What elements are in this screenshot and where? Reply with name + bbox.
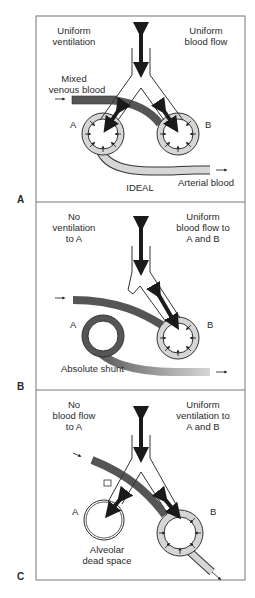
outflow-label: Arterial blood bbox=[178, 177, 234, 188]
top-left-label-line3: to A bbox=[66, 421, 83, 432]
top-right-label-line3: A and B bbox=[186, 233, 219, 244]
top-left-label-line2: blood flow bbox=[53, 410, 96, 421]
top-right-label-line1: Uniform bbox=[189, 25, 222, 36]
inflow-label-line1: Mixed bbox=[61, 73, 86, 84]
shunt-label: Absolute shunt bbox=[61, 363, 124, 374]
dead-space-label-line2: dead space bbox=[82, 555, 131, 566]
panel-label: B bbox=[17, 381, 24, 392]
alveolus-b-label: B bbox=[210, 506, 216, 517]
top-left-label-line1: No bbox=[68, 399, 80, 410]
panel-a: A Uniform ventilation Uniform blood flow… bbox=[17, 25, 234, 205]
alveolus-a-label: A bbox=[72, 506, 79, 517]
top-right-label-line2: blood flow bbox=[185, 36, 228, 47]
alveolus-a-label: A bbox=[70, 319, 77, 330]
panel-label: C bbox=[17, 571, 24, 582]
top-left-label-line1: Uniform bbox=[57, 25, 90, 36]
panel-label: A bbox=[17, 194, 24, 205]
top-right-label-line2: ventilation to bbox=[176, 410, 229, 421]
top-left-label-line1: No bbox=[68, 211, 80, 222]
dead-space-label-line1: Alveolar bbox=[90, 544, 124, 555]
inflow-label-line2: venous blood bbox=[49, 84, 106, 95]
alveolus-a-label: A bbox=[70, 119, 77, 130]
ventilation-perfusion-diagram: A Uniform ventilation Uniform blood flow… bbox=[0, 0, 255, 598]
top-left-label-line2: ventilation bbox=[53, 222, 96, 233]
panel-c: C No blood flow to A Uniform ventilation… bbox=[17, 399, 230, 582]
panel-b: B No ventilation to A Uniform blood flow… bbox=[17, 211, 230, 392]
top-left-label-line2: ventilation bbox=[53, 36, 96, 47]
top-right-label-line1: Uniform bbox=[186, 211, 219, 222]
alveolus-b-label: B bbox=[207, 319, 213, 330]
panel-caption: IDEAL bbox=[126, 182, 153, 193]
top-right-label-line2: blood flow to bbox=[176, 222, 229, 233]
top-right-label-line1: Uniform bbox=[186, 399, 219, 410]
top-right-label-line3: A and B bbox=[186, 421, 219, 432]
alveolus-b-label: B bbox=[205, 119, 211, 130]
figure-frame bbox=[36, 16, 245, 580]
top-left-label-line3: to A bbox=[66, 233, 83, 244]
